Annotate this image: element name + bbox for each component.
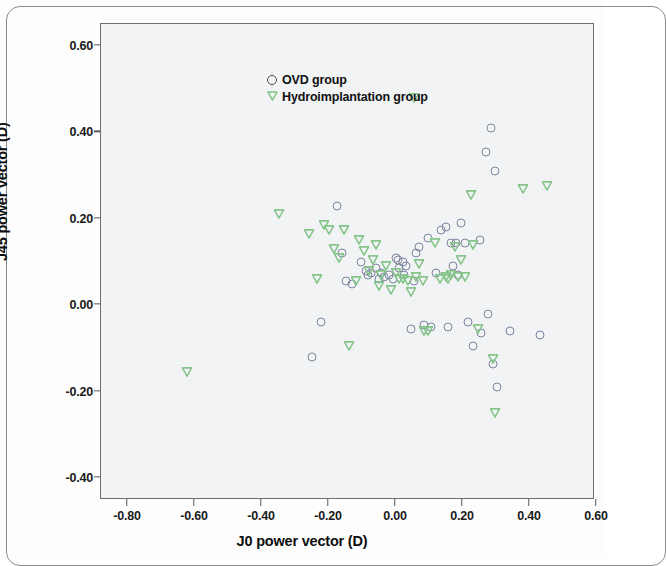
y-axis-tick-label: 0.40: [69, 125, 93, 139]
x-axis-tick-label: 0.20: [450, 509, 474, 523]
data-point: [422, 326, 433, 336]
legend-item: OVD group: [264, 71, 428, 88]
open-circle-marker-icon: [536, 331, 545, 340]
data-point: [329, 244, 340, 254]
data-point: [374, 281, 385, 291]
open-circle-marker-icon: [492, 383, 501, 392]
data-point: [442, 274, 453, 284]
open-circle-marker-icon: [402, 262, 411, 271]
data-point: [356, 258, 365, 267]
open-triangle-down-marker-icon: [391, 268, 402, 278]
data-point: [375, 275, 384, 284]
x-axis-tick-mark: [394, 499, 395, 506]
data-point: [350, 276, 361, 286]
x-axis-tick-mark: [260, 499, 261, 506]
open-circle-marker-icon: [388, 275, 397, 284]
open-circle-marker-icon: [376, 268, 385, 277]
open-triangle-down-marker-icon: [312, 274, 323, 284]
open-triangle-down-marker-icon: [374, 281, 385, 291]
open-circle-marker-icon: [308, 353, 317, 362]
data-point: [441, 272, 452, 282]
data-point: [375, 270, 386, 280]
open-triangle-down-marker-icon: [344, 341, 355, 351]
open-triangle-down-marker-icon: [359, 246, 370, 256]
open-circle-marker-icon: [475, 236, 484, 245]
open-triangle-down-marker-icon: [370, 240, 381, 250]
data-point: [469, 342, 478, 351]
data-point: [487, 124, 496, 133]
data-point: [181, 367, 192, 377]
data-point: [489, 359, 498, 368]
open-circle-marker-icon: [356, 258, 365, 267]
open-circle-marker-icon: [348, 279, 357, 288]
data-point: [316, 318, 325, 327]
data-point: [341, 277, 350, 286]
data-point: [456, 255, 467, 265]
data-point: [394, 274, 405, 284]
data-point: [400, 270, 409, 279]
data-point: [434, 274, 445, 284]
open-circle-marker-icon: [490, 167, 499, 176]
data-point: [468, 240, 479, 250]
data-point: [459, 272, 470, 282]
open-triangle-down-marker-icon: [452, 272, 463, 282]
open-circle-marker-icon: [395, 264, 404, 273]
x-axis-tick: 0.40: [517, 499, 541, 523]
open-circle-marker-icon: [371, 264, 380, 273]
data-point: [370, 240, 381, 250]
open-circle-marker-icon: [366, 268, 375, 277]
open-circle-marker-icon: [452, 238, 461, 247]
data-point: [312, 274, 323, 284]
data-point: [443, 322, 452, 331]
open-triangle-down-marker-icon: [473, 324, 484, 334]
open-circle-marker-icon: [442, 223, 451, 232]
data-point: [318, 220, 329, 230]
data-point: [448, 262, 457, 271]
data-point: [541, 181, 552, 191]
open-circle-marker-icon: [448, 262, 457, 271]
data-point: [395, 264, 404, 273]
data-point: [492, 383, 501, 392]
data-point: [488, 354, 499, 364]
open-triangle-down-marker-icon: [273, 209, 284, 219]
open-triangle-down-marker-icon: [429, 237, 440, 247]
open-circle-marker-icon: [487, 124, 496, 133]
open-triangle-down-marker-icon: [350, 276, 361, 286]
y-axis-tick: 0.40: [69, 122, 93, 140]
data-point: [402, 276, 413, 286]
open-circle-marker-icon: [453, 270, 462, 279]
x-axis-tick-mark: [528, 499, 529, 506]
data-point: [303, 229, 314, 239]
open-triangle-down-marker-icon: [329, 244, 340, 254]
data-point: [423, 234, 432, 243]
data-point: [505, 327, 514, 336]
open-circle-marker-icon: [363, 270, 372, 279]
y-axis-tick: 0.20: [69, 209, 93, 227]
open-circle-marker-icon: [489, 359, 498, 368]
open-triangle-down-marker-icon: [324, 225, 335, 235]
data-point: [453, 270, 462, 279]
x-axis-tick-label: -0.40: [247, 509, 275, 523]
data-point: [344, 341, 355, 351]
data-point: [449, 242, 460, 252]
open-circle-marker-icon: [400, 270, 409, 279]
data-point: [363, 270, 372, 279]
open-triangle-down-marker-icon: [181, 367, 192, 377]
y-axis-tick: -0.20: [66, 382, 94, 400]
open-circle-marker-icon: [375, 275, 384, 284]
x-axis-tick-mark: [126, 499, 127, 506]
open-triangle-down-marker-icon: [417, 276, 428, 286]
data-point: [452, 272, 463, 282]
x-axis-tick-label: 0.60: [584, 509, 608, 523]
x-axis-tick-mark: [461, 499, 462, 506]
data-point: [391, 268, 402, 278]
data-point: [359, 246, 370, 256]
open-circle-marker-icon: [420, 320, 429, 329]
data-point: [380, 261, 391, 271]
data-point: [398, 258, 407, 267]
legend-item-label: OVD group: [282, 73, 347, 87]
open-triangle-down-marker-icon: [456, 255, 467, 265]
open-triangle-down-marker-icon: [441, 272, 452, 282]
open-triangle-down-marker-icon: [367, 255, 378, 265]
open-triangle-down-marker-icon: [442, 274, 453, 284]
